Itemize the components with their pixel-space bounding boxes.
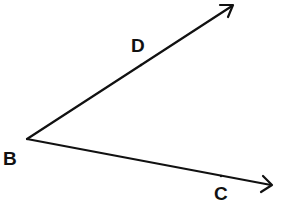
ray-bc xyxy=(27,139,271,185)
ray-bd xyxy=(27,6,232,139)
angle-svg: B D C xyxy=(0,0,282,204)
label-b: B xyxy=(3,148,17,169)
point-d-mark xyxy=(140,64,142,66)
angle-diagram: B D C xyxy=(0,0,282,204)
label-d: D xyxy=(131,35,145,56)
label-c: C xyxy=(214,183,228,204)
point-c-mark xyxy=(220,175,222,177)
